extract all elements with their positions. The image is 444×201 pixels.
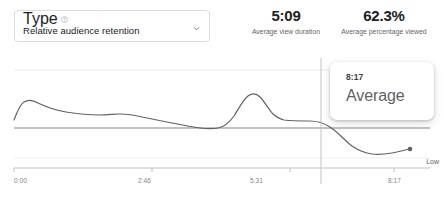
stat-average-view-duration: 5:09 Average view duration <box>248 7 324 36</box>
x-tick-label-3: 8:17 <box>388 177 401 185</box>
stat-caption: Average view duration <box>248 27 324 36</box>
type-dropdown[interactable]: Type Relative audience retention <box>14 10 210 42</box>
chart-header: Type Relative audience retention 5:09 Av… <box>0 0 444 54</box>
stat-value: 5:09 <box>248 7 324 25</box>
tooltip-time: 8:17 <box>346 72 434 83</box>
chart-tooltip: 8:17 Average <box>330 62 434 120</box>
tooltip-series-name: Average <box>346 85 434 106</box>
chevron-down-icon[interactable] <box>192 24 201 33</box>
chart-x-ticks <box>14 168 394 172</box>
stat-caption: Average percentage viewed <box>338 27 430 36</box>
x-tick-label-0: 0:00 <box>14 177 27 185</box>
stat-average-percentage-viewed: 62.3% Average percentage viewed <box>338 7 430 36</box>
help-circle-icon[interactable] <box>61 16 68 23</box>
type-label-group: Type <box>23 14 68 24</box>
type-dropdown-value: Relative audience retention <box>23 24 139 37</box>
chart-endpoint-marker <box>408 147 413 152</box>
x-tick-label-1: 2:46 <box>138 177 151 185</box>
x-tick-label-2: 5:31 <box>250 177 263 185</box>
y-axis-low-annotation: Low <box>426 157 439 166</box>
stat-value: 62.3% <box>338 7 430 25</box>
